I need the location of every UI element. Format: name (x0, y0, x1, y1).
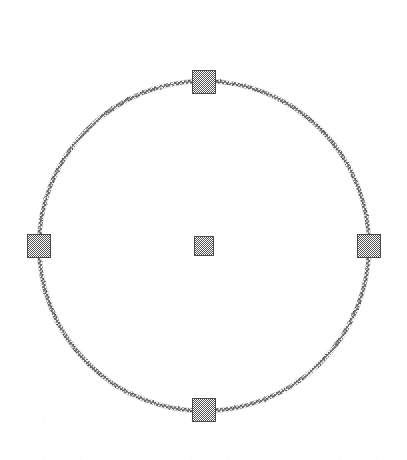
resize-handle-top[interactable] (192, 70, 216, 94)
resize-handle-right[interactable] (357, 234, 381, 258)
resize-handle-left[interactable] (27, 234, 51, 258)
vector-drawing-surface[interactable] (0, 0, 407, 460)
drawing-canvas-root[interactable] (0, 0, 407, 460)
center-anchor-handle[interactable] (194, 236, 214, 256)
resize-handle-bottom[interactable] (192, 398, 216, 422)
